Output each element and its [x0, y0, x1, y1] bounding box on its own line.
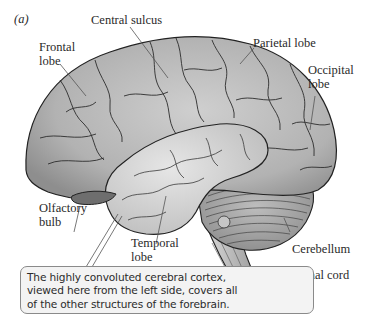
label-olfactory-bulb: Olfactory bulb [39, 201, 87, 229]
label-cerebellum: Cerebellum [292, 242, 350, 256]
caption-callout-box: The highly convoluted cerebral cortex, v… [20, 266, 314, 314]
label-central-sulcus: Central sulcus [91, 13, 162, 27]
label-temporal-lobe: Temporal lobe [131, 236, 179, 264]
label-occipital-lobe: Occipital lobe [308, 63, 354, 91]
brain-diagram: (a) Central sulcus Frontal lobe Parietal… [0, 0, 365, 331]
label-parietal-lobe: Parietal lobe [253, 36, 316, 50]
callout-pointer-2 [92, 216, 122, 267]
callout-line-1: The highly convoluted cerebral cortex, [27, 271, 307, 284]
label-frontal-lobe: Frontal lobe [39, 40, 75, 68]
panel-label: (a) [14, 12, 29, 27]
callout-pointer-1 [86, 214, 118, 267]
callout-line-3: of the other structures of the forebrain… [27, 298, 307, 311]
callout-line-2: viewed here from the left side, covers a… [27, 284, 307, 297]
